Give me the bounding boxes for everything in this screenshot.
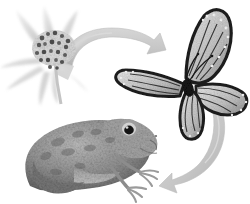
frog-eye xyxy=(119,119,139,137)
diagram-canvas xyxy=(0,0,250,204)
cycle-diagram: Life cycle diagram xyxy=(0,0,250,204)
